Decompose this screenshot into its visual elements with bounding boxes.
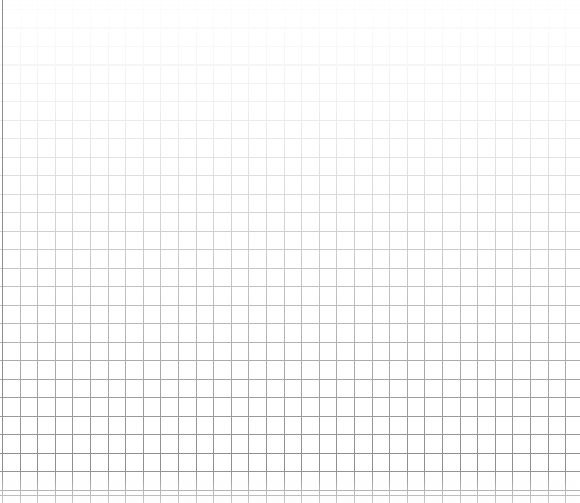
- paper-edge-vignette: [0, 0, 580, 503]
- baseline-rule: [0, 495, 580, 496]
- grid-background: [0, 0, 580, 503]
- left-margin-rule: [2, 0, 3, 503]
- grid-sheet-canvas: [0, 0, 580, 503]
- page-title: [0, 0, 580, 4]
- grid-lines: [0, 0, 580, 503]
